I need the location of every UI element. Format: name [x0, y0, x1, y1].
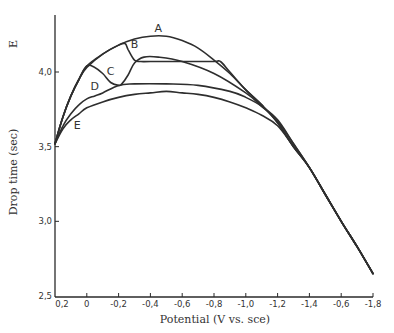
curve-label-b: B [131, 38, 139, 51]
x-tick-label: -1,8 [365, 299, 382, 309]
x-tick-label: -0,2 [110, 299, 127, 309]
curve-d [55, 84, 373, 274]
corner-label: E [7, 40, 20, 48]
curve-b [55, 43, 373, 273]
y-tick-label: 3,5 [38, 142, 52, 152]
plot-area: 0,20-0,2-0,4-0,6-0,8-1,0-1,2-1,4-0,6-1,8… [38, 15, 381, 309]
y-ticks: 2,53,03,54,0 [38, 67, 59, 301]
x-tick-label: 0 [84, 299, 89, 309]
x-ticks: 0,20-0,2-0,4-0,6-0,8-1,0-1,2-1,4-0,6-1,8 [55, 293, 381, 309]
curve-label-d: D [91, 80, 99, 93]
curve-e [55, 91, 373, 273]
x-tick-label: -1,2 [269, 299, 286, 309]
curve-c [55, 56, 373, 273]
y-tick-label: 4,0 [38, 67, 52, 77]
x-tick-label: -0,4 [142, 299, 159, 309]
y-axis-title: Drop time (sec) [7, 129, 20, 216]
x-tick-label: 0,2 [55, 299, 69, 309]
x-axis-title: Potential (V vs. sce) [160, 313, 270, 326]
curve-labels: ABCDE [74, 22, 163, 132]
x-tick-label: -1,4 [301, 299, 318, 309]
curves [55, 36, 373, 274]
x-tick-label: -0,8 [206, 299, 223, 309]
chart: 0,20-0,2-0,4-0,6-0,8-1,0-1,2-1,4-0,6-1,8… [0, 0, 394, 333]
curve-label-c: C [107, 65, 115, 78]
curve-label-e: E [74, 119, 81, 132]
x-tick-label: -0,6 [174, 299, 191, 309]
x-tick-label: -1,0 [238, 299, 255, 309]
curve-a [55, 36, 373, 274]
y-tick-label: 3,0 [38, 216, 52, 226]
y-tick-label: 2,5 [38, 291, 52, 301]
curve-label-a: A [155, 22, 163, 35]
x-tick-label: -0,6 [333, 299, 350, 309]
